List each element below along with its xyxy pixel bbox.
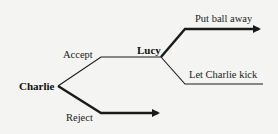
edge-reject [58, 86, 158, 113]
node-charlie: Charlie [19, 80, 54, 92]
branch-label-accept: Accept [63, 49, 93, 61]
branch-label-reject: Reject [66, 112, 93, 124]
branch-label-let-charlie-kick: Let Charlie kick [189, 69, 257, 81]
branch-label-put-ball-away: Put ball away [195, 13, 252, 25]
edge-accept [58, 57, 161, 86]
node-lucy: Lucy [137, 44, 161, 56]
edge-put-ball-away [161, 29, 259, 57]
game-tree-diagram: Charlie Lucy Accept Reject Put ball away… [0, 0, 278, 134]
